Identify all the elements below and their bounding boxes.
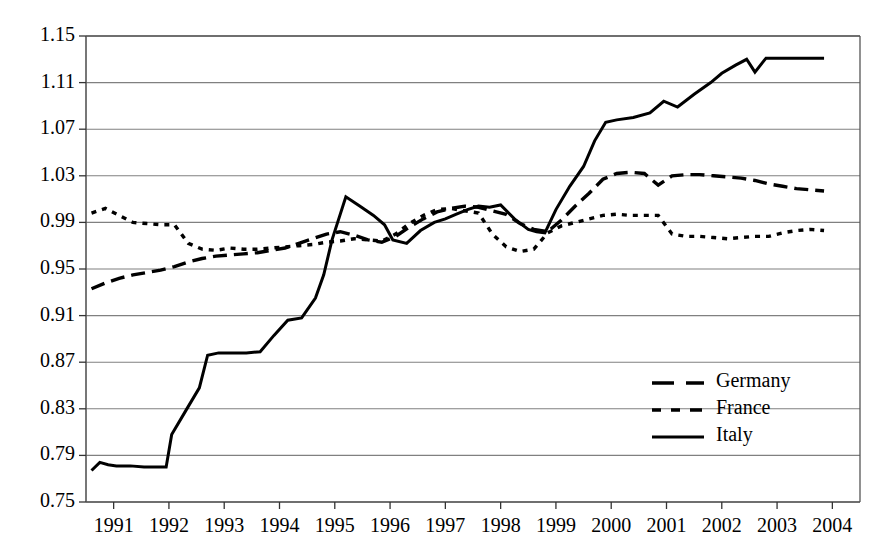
legend-label-france: France (716, 396, 770, 419)
y-axis-tick-label: 1.07 (9, 116, 75, 139)
line-chart: 1.151.111.071.030.990.950.910.870.830.79… (0, 0, 888, 559)
y-axis-tick-label: 1.15 (9, 23, 75, 46)
x-axis-tick-label: 1998 (471, 514, 531, 537)
y-axis-tick-label: 1.03 (9, 163, 75, 186)
y-axis-tick-label: 0.83 (9, 396, 75, 419)
x-axis-tick-label: 1995 (305, 514, 365, 537)
y-axis-tick-label: 1.11 (9, 70, 75, 93)
y-axis-tick-label: 0.99 (9, 209, 75, 232)
x-axis-tick-label: 1991 (84, 514, 144, 537)
y-axis-tick-label: 0.79 (9, 442, 75, 465)
legend-label-germany: Germany (716, 369, 790, 392)
legend-label-italy: Italy (716, 423, 753, 446)
x-axis-tick-label: 1993 (194, 514, 254, 537)
x-axis-tick-label: 1994 (250, 514, 310, 537)
x-axis-tick-label: 1992 (139, 514, 199, 537)
y-axis-tick-label: 0.91 (9, 303, 75, 326)
x-axis-tick-label: 2003 (747, 514, 807, 537)
chart-canvas (0, 0, 888, 559)
x-axis-tick-label: 1996 (360, 514, 420, 537)
x-axis-tick-label: 2001 (637, 514, 697, 537)
x-axis-tick-label: 1999 (526, 514, 586, 537)
y-axis-tick-label: 0.87 (9, 349, 75, 372)
x-axis-tick-label: 2004 (802, 514, 862, 537)
x-axis-tick-label: 1997 (415, 514, 475, 537)
y-axis-tick-label: 0.95 (9, 256, 75, 279)
legend-swatches (652, 383, 704, 437)
series-line-germany (92, 172, 825, 288)
y-axis-tick-label: 0.75 (9, 489, 75, 512)
x-axis-tick-label: 2000 (581, 514, 641, 537)
x-axis-tick-label: 2002 (692, 514, 752, 537)
